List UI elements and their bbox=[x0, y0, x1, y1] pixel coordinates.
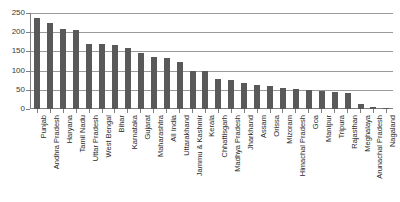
bar-slot bbox=[238, 13, 251, 109]
bar-slot bbox=[199, 13, 212, 109]
x-label-slot: Jammu & Kashmir bbox=[186, 113, 199, 202]
bar bbox=[345, 93, 351, 109]
bar bbox=[164, 58, 170, 109]
x-label-slot: Kerala bbox=[199, 113, 212, 202]
x-label-slot: Uttarakhand bbox=[173, 113, 186, 202]
x-label-slot: Haryana bbox=[57, 113, 70, 202]
x-axis-labels: PunjabAndhra PradeshHaryanaTamil NaduUtt… bbox=[31, 113, 393, 202]
bar-slot bbox=[328, 13, 341, 109]
x-label-slot: Nagaland bbox=[380, 113, 393, 202]
x-label-slot: Arunachal Pradesh bbox=[367, 113, 380, 202]
bar-slot bbox=[147, 13, 160, 109]
bar-slot bbox=[251, 13, 264, 109]
bar-slot bbox=[264, 13, 277, 109]
bar-slot bbox=[31, 13, 44, 109]
bar bbox=[202, 71, 208, 109]
bar-slot bbox=[57, 13, 70, 109]
y-axis-tick-label: 50 bbox=[16, 86, 25, 94]
bar bbox=[34, 18, 40, 109]
x-label-slot: Andhra Pradesh bbox=[44, 113, 57, 202]
bar-slot bbox=[70, 13, 83, 109]
x-label-slot: Bihar bbox=[109, 113, 122, 202]
x-label-slot: Chhattisgarh bbox=[212, 113, 225, 202]
bar bbox=[47, 23, 53, 109]
bar bbox=[241, 83, 247, 109]
bar bbox=[332, 92, 338, 109]
bar bbox=[306, 90, 312, 109]
bar bbox=[125, 48, 131, 109]
bar bbox=[138, 53, 144, 109]
bar-series bbox=[31, 13, 393, 109]
bar bbox=[73, 30, 79, 109]
bar-slot bbox=[109, 13, 122, 109]
bar bbox=[319, 91, 325, 109]
x-label-slot: Assam bbox=[251, 113, 264, 202]
bar-slot bbox=[289, 13, 302, 109]
bar-slot bbox=[354, 13, 367, 109]
bar-slot bbox=[134, 13, 147, 109]
bar bbox=[151, 57, 157, 109]
x-label-slot: Madhya Pradesh bbox=[225, 113, 238, 202]
x-label-slot: Manipur bbox=[315, 113, 328, 202]
bar-slot bbox=[225, 13, 238, 109]
bar-slot bbox=[315, 13, 328, 109]
bar bbox=[267, 86, 273, 109]
bar bbox=[86, 44, 92, 109]
x-label-slot: Meghalaya bbox=[354, 113, 367, 202]
bar bbox=[293, 89, 299, 109]
x-label-slot: Uttar Pradesh bbox=[83, 113, 96, 202]
bar bbox=[280, 88, 286, 109]
bar-slot bbox=[44, 13, 57, 109]
bar bbox=[254, 85, 260, 109]
bar-slot bbox=[173, 13, 186, 109]
x-label-slot: Karnataka bbox=[121, 113, 134, 202]
bar-slot bbox=[302, 13, 315, 109]
bar-slot bbox=[160, 13, 173, 109]
bar-slot bbox=[83, 13, 96, 109]
bar bbox=[112, 45, 118, 109]
bar bbox=[228, 80, 234, 109]
y-axis-tick-label: 0 bbox=[21, 105, 25, 113]
bar-slot bbox=[380, 13, 393, 109]
y-axis: 050100150200250 bbox=[0, 0, 30, 115]
bar-slot bbox=[121, 13, 134, 109]
x-label-slot: Himachal Pradesh bbox=[289, 113, 302, 202]
y-axis-tick-label: 200 bbox=[12, 28, 25, 36]
bar-slot bbox=[96, 13, 109, 109]
bar-chart: 050100150200250 PunjabAndhra PradeshHary… bbox=[0, 0, 400, 202]
bar-slot bbox=[212, 13, 225, 109]
x-label-slot: Tamil Nadu bbox=[70, 113, 83, 202]
bar bbox=[177, 62, 183, 109]
bar-slot bbox=[277, 13, 290, 109]
x-label-slot: All India bbox=[160, 113, 173, 202]
y-axis-tick bbox=[26, 109, 30, 110]
bar-slot bbox=[341, 13, 354, 109]
x-label-slot: Punjab bbox=[31, 113, 44, 202]
y-axis-tick-label: 250 bbox=[12, 9, 25, 17]
y-axis-tick-label: 100 bbox=[12, 67, 25, 75]
x-label-slot: West Bengal bbox=[96, 113, 109, 202]
bar bbox=[215, 79, 221, 109]
x-label-slot: Mizoram bbox=[277, 113, 290, 202]
y-axis-tick-label: 150 bbox=[12, 47, 25, 55]
x-label-slot: Maharashtra bbox=[147, 113, 160, 202]
x-label-slot: Tripura bbox=[328, 113, 341, 202]
bar-slot bbox=[186, 13, 199, 109]
bar-slot bbox=[367, 13, 380, 109]
x-label-slot: Jharkhand bbox=[238, 113, 251, 202]
x-label-slot: Goa bbox=[302, 113, 315, 202]
bar bbox=[190, 71, 196, 109]
bar bbox=[99, 44, 105, 109]
x-axis-category-label: Nagaland bbox=[389, 115, 397, 147]
x-label-slot: Orissa bbox=[264, 113, 277, 202]
x-label-slot: Gujarat bbox=[134, 113, 147, 202]
bar bbox=[60, 29, 66, 109]
x-label-slot: Rajasthan bbox=[341, 113, 354, 202]
